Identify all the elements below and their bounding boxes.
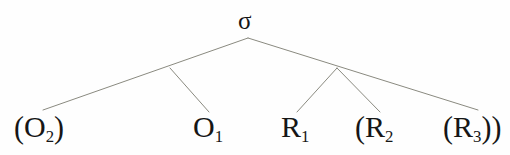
leaf-o2-subscript: 2 xyxy=(46,127,54,146)
leaf-o1-subscript: 1 xyxy=(215,127,223,146)
edge-right-node-to-r1 xyxy=(297,68,337,112)
leaf-o2-base: O xyxy=(24,110,46,143)
edge-root-to-left-branch xyxy=(43,38,248,110)
tree-edges-layer xyxy=(0,0,510,155)
leaf-o2-close-paren: ) xyxy=(54,111,64,143)
leaf-r2-subscript: 2 xyxy=(385,127,393,146)
leaf-r2: (R2 xyxy=(355,112,393,142)
leaf-r3-subscript: 3 xyxy=(473,127,481,146)
leaf-r1: R1 xyxy=(281,112,309,142)
leaf-r3: (R3)) xyxy=(443,112,501,142)
edge-root-to-right-branch xyxy=(248,38,478,110)
leaf-o2: (O2) xyxy=(14,112,64,142)
leaf-o1: O1 xyxy=(193,112,223,142)
leaf-o2-open-paren: ( xyxy=(14,111,24,143)
leaf-r3-base: R xyxy=(453,110,473,143)
edge-right-node-to-r2 xyxy=(337,68,380,112)
tree-diagram-figure: σ (O2) O1 R1 (R2 (R3)) xyxy=(0,0,510,155)
leaf-o1-base: O xyxy=(193,110,215,143)
root-node-sigma: σ xyxy=(238,8,251,33)
leaf-r1-base: R xyxy=(281,110,301,143)
leaf-r3-open-paren: ( xyxy=(443,111,453,143)
leaf-r3-close-paren: )) xyxy=(481,111,501,143)
leaf-r1-subscript: 1 xyxy=(301,127,309,146)
leaf-r2-open-paren: ( xyxy=(355,111,365,143)
leaf-r2-base: R xyxy=(365,110,385,143)
edge-left-node-to-o1 xyxy=(170,68,209,112)
